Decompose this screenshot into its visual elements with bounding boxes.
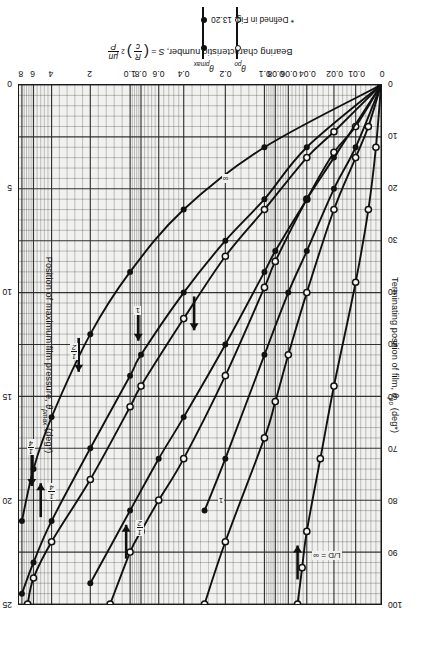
curve-0: [298, 85, 381, 604]
y-left-unit: (deg*): [390, 408, 400, 433]
curve-7: [22, 85, 381, 521]
legend: θpo θpmax: [128, 3, 248, 61]
x-tick-label: 0.02: [326, 69, 343, 79]
y-axis-right-title: Position of maximum film pressure, θpmax…: [42, 205, 54, 505]
x-tick-label: 0.8: [135, 69, 147, 79]
y-left-tick-label: 20: [388, 183, 414, 193]
y-right-subscript: pmax: [42, 409, 49, 425]
frac-P-den: P: [109, 43, 117, 52]
annotation-ld-infinity: L/D = ∞: [312, 551, 341, 560]
y-left-subscript: po: [388, 398, 395, 405]
annotation-one-right: 1: [135, 306, 141, 315]
legend-label-theta-pmax: θpmax: [194, 61, 214, 73]
y-left-tick-label: 0: [388, 79, 414, 89]
fraction: 12: [137, 520, 143, 536]
curve-6: [22, 85, 381, 594]
y-right-tick-label: 20: [2, 496, 12, 506]
legend-theta-sub-pmax: pmax: [194, 61, 210, 68]
legend-marker-filled-circle-bottom: [201, 17, 207, 23]
x-tick-label: 0.1: [259, 69, 271, 79]
legend-theta-sub-po: po: [234, 61, 241, 68]
fraction: 14: [28, 439, 34, 455]
legend-theta-symbol-po: θ: [241, 63, 246, 73]
annotation-half-right: 12: [70, 343, 78, 359]
y-right-tick-label: 15: [2, 392, 12, 402]
legend-footnote: * Defined in Fig. 13.20: [211, 15, 294, 25]
legend-line-theta-pmax: [202, 7, 204, 59]
curve-5: [90, 85, 381, 583]
y-right-tick-label: 25: [2, 600, 12, 610]
y-right-tick-label: 5: [7, 183, 12, 193]
annotation-half-left: 12: [136, 520, 144, 536]
y-right-tick-label: 10: [2, 287, 12, 297]
x-tick-label: 0.01: [348, 69, 365, 79]
y-left-tick-label: 10: [388, 131, 414, 141]
frac-mun-num: μn: [108, 51, 119, 61]
bearing-chart-figure: 00.010.020.040.060.080.10.20.40.60.81.02…: [0, 0, 444, 661]
legend-marker-open-circle-top: [235, 45, 241, 51]
annotation-quarter-right: 14: [27, 439, 35, 455]
x-tick-label: 2: [87, 69, 92, 79]
legend-label-theta-po: θpo: [234, 61, 246, 73]
x-tick-label: 0.04: [299, 69, 316, 79]
x-tick-label: 8: [19, 69, 24, 79]
x-tick-label: 0.2: [220, 69, 232, 79]
x-tick-label: 1.0: [124, 69, 136, 79]
x-tick-label: 0.6: [153, 69, 165, 79]
y-right-prefix: Position of maximum film pressure,: [44, 257, 54, 402]
curve-2: [110, 85, 381, 604]
x-axis-exponent: 2: [121, 48, 125, 55]
y-axis-left-title: Terminating position of film, θpo (deg*): [388, 205, 400, 505]
rotated-figure-wrapper: 00.010.020.040.060.080.10.20.40.60.81.02…: [0, 0, 444, 661]
x-tick-label: 4: [48, 69, 53, 79]
y-left-tick-label: 90: [388, 548, 414, 558]
x-tick-label: 0: [380, 69, 385, 79]
y-right-tick-label: 0: [7, 79, 12, 89]
legend-marker-filled-circle-top: [201, 45, 207, 51]
annotation-infinity-right: ∞: [222, 174, 230, 183]
y-right-unit: (deg*): [44, 428, 54, 453]
x-tick-label: 6: [30, 69, 35, 79]
annotation-one-left: 1: [218, 496, 224, 505]
legend-theta-symbol-pmax: θ: [209, 63, 214, 73]
viscosity-speed-pressure-ratio: μn P: [108, 43, 119, 61]
fraction: 12: [71, 343, 77, 359]
y-left-tick-label: 100: [388, 600, 414, 610]
y-left-prefix: Terminating position of film,: [390, 277, 400, 390]
x-tick-label: 0.4: [178, 69, 190, 79]
